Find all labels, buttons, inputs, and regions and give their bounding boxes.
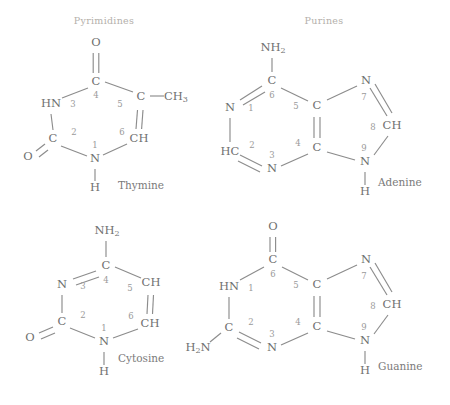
- molecule-name-adenine: Adenine: [377, 176, 422, 188]
- ring-number-cytosine-4: 4: [103, 275, 108, 285]
- bond-adenine-c6-n1-b: [243, 92, 265, 105]
- bond-adenine-c2-n3-b: [238, 161, 260, 172]
- bond-adenine-c2-n3-a: [240, 155, 262, 166]
- atom-label-adenine-n9: N: [360, 154, 370, 168]
- atom-label-cytosine-c4: C: [102, 258, 111, 272]
- bond-cytosine-c2-n1: [70, 328, 95, 338]
- atom-label-guanine-c2: C: [225, 320, 234, 334]
- bond-guanine-n7-c8-a: [375, 263, 392, 292]
- ring-number-thymine-1: 1: [92, 140, 97, 150]
- bond-guanine-c2-n2: [210, 333, 221, 342]
- atom-label-cytosine-c5: CH: [142, 275, 161, 289]
- atom-label-thymine-n3: HN: [41, 96, 61, 110]
- atom-label-thymine-c5: C: [137, 89, 146, 103]
- ring-number-guanine-7: 7: [361, 271, 366, 281]
- atom-label-adenine-n3: N: [267, 161, 277, 175]
- bond-cytosine-n1-c6: [113, 329, 138, 338]
- ring-number-adenine-1: 1: [248, 103, 253, 113]
- bond-guanine-c2-n3-b: [237, 338, 259, 349]
- bond-guanine-n9-c4: [327, 331, 355, 339]
- molecule-name-guanine: Guanine: [378, 360, 423, 372]
- atom-label-adenine-c6: C: [268, 73, 277, 87]
- bond-adenine-n9-c4: [327, 152, 355, 160]
- ring-number-cytosine-2: 2: [80, 310, 85, 320]
- ring-number-guanine-4: 4: [295, 317, 300, 327]
- atom-label-guanine-c6: C: [269, 252, 278, 266]
- bond-thymine-c4-n3: [62, 88, 88, 98]
- ring-number-thymine-2: 2: [71, 127, 76, 137]
- ring-number-thymine-3: 3: [70, 99, 75, 109]
- bond-cytosine-c5-c4: [115, 267, 141, 278]
- ring-number-guanine-3: 3: [269, 329, 274, 339]
- atom-label-thymine-o4: O: [91, 35, 100, 49]
- ring-number-cytosine-1: 1: [101, 323, 106, 333]
- bond-guanine-c6-n1: [240, 267, 264, 280]
- bond-guanine-c2-n3-a: [239, 332, 261, 343]
- ring-number-thymine-4: 4: [93, 90, 98, 100]
- ring-number-cytosine-3: 3: [80, 281, 85, 291]
- atom-label-guanine-n9: N: [360, 333, 370, 347]
- bond-thymine-c2-o2-a: [36, 144, 45, 151]
- bond-adenine-c6-n1-a: [240, 86, 262, 100]
- ring-number-thymine-5: 5: [117, 99, 122, 109]
- atom-label-adenine-c4: C: [313, 140, 322, 154]
- atom-label-cytosine-h1: H: [99, 364, 109, 378]
- bond-adenine-c8-n9: [374, 136, 388, 155]
- ring-number-adenine-9: 9: [361, 143, 366, 153]
- bond-adenine-n7-c8-b: [370, 88, 387, 116]
- bond-cytosine-c2-o2-a: [39, 327, 53, 333]
- ring-number-adenine-6: 6: [269, 90, 274, 100]
- ring-number-cytosine-5: 5: [127, 283, 132, 293]
- bond-thymine-c6-c5-b: [142, 110, 143, 129]
- bond-thymine-c2-o2-b: [39, 150, 48, 157]
- atom-label-cytosine-c6: CH: [141, 316, 160, 330]
- ring-number-adenine-8: 8: [370, 122, 375, 132]
- ring-number-guanine-8: 8: [370, 301, 375, 311]
- bond-guanine-n3-c4: [281, 333, 308, 345]
- bond-guanine-c5-c6: [282, 267, 308, 280]
- atom-label-adenine-c8: CH: [383, 118, 402, 132]
- atom-label-guanine-c4: C: [313, 319, 322, 333]
- atom-label-thymine-o2: O: [23, 149, 32, 163]
- atom-label-guanine-n1: HN: [219, 279, 239, 293]
- ring-number-guanine-9: 9: [361, 322, 366, 332]
- atom-label-guanine-c8: CH: [383, 297, 402, 311]
- molecule-name-thymine: Thymine: [118, 179, 164, 191]
- group-title-purines: Purines: [305, 15, 344, 26]
- ring-number-adenine-5: 5: [293, 101, 298, 111]
- atom-labels-layer: OCHNCONCHCCH3H432165NH2CNHCNCCNCHNH61234…: [23, 35, 401, 379]
- ring-number-guanine-5: 5: [293, 280, 298, 290]
- bond-adenine-n3-c4: [281, 154, 308, 166]
- ring-number-guanine-1: 1: [248, 283, 253, 293]
- molecule-name-cytosine: Cytosine: [118, 352, 164, 364]
- atom-label-guanine-n3: N: [267, 340, 277, 354]
- atom-label-thymine-h1: H: [90, 180, 100, 194]
- bond-guanine-c5-n7: [327, 265, 357, 279]
- atom-label-thymine-c2: C: [49, 131, 58, 145]
- atom-label-guanine-c5: C: [313, 277, 322, 291]
- molecule-cytosine: [39, 241, 154, 365]
- atom-label-cytosine-o2: O: [25, 330, 34, 344]
- atom-label-cytosine-n1: N: [99, 334, 109, 348]
- ring-number-guanine-2: 2: [248, 317, 253, 327]
- bond-adenine-n7-c8-a: [375, 84, 392, 113]
- ring-number-cytosine-6: 6: [128, 311, 133, 321]
- ring-number-adenine-2: 2: [249, 140, 254, 150]
- bond-guanine-n7-c8-b: [370, 267, 387, 295]
- atom-label-adenine-c5: C: [313, 98, 322, 112]
- bond-guanine-c8-n9: [374, 315, 388, 334]
- bond-cytosine-c6-c5-a: [147, 295, 148, 314]
- atom-label-thymine-c6: CH: [130, 131, 149, 145]
- atom-label-thymine-n1: N: [90, 151, 100, 165]
- atom-label-thymine-c4: C: [92, 74, 101, 88]
- bond-cytosine-c6-c5-b: [153, 295, 154, 314]
- group-title-pyrimidines: Pyrimidines: [74, 15, 134, 26]
- ring-number-adenine-7: 7: [361, 92, 366, 102]
- bond-adenine-c5-n7: [327, 86, 357, 100]
- atom-label-adenine-h9: H: [360, 184, 370, 198]
- bond-cytosine-c4-n3-a: [73, 271, 96, 279]
- atom-label-adenine-c2: HC: [221, 144, 240, 158]
- atom-label-guanine-n7: N: [361, 252, 371, 266]
- atom-label-cytosine-n3: N: [57, 277, 67, 291]
- bond-thymine-n3-c2: [51, 114, 53, 130]
